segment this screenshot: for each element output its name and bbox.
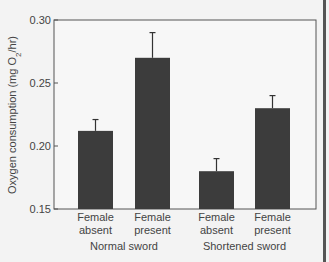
x-tick-label: Female — [77, 211, 114, 223]
page-edge-divider — [323, 0, 326, 262]
group-label: Normal sword — [90, 240, 158, 252]
y-tick-label: 0.25 — [30, 77, 51, 89]
y-tick-label: 0.15 — [30, 203, 51, 215]
x-tick-label: Female — [134, 211, 171, 223]
y-tick-label: 0.30 — [30, 14, 51, 26]
bar-chart: 0.150.200.250.30 FemaleabsentFemaleprese… — [0, 0, 329, 262]
x-axis-labels: FemaleabsentFemalepresentFemaleabsentFem… — [77, 211, 291, 252]
bar — [199, 171, 234, 209]
x-tick-label: absent — [79, 224, 112, 236]
bar — [255, 108, 290, 209]
y-axis-label: Oxygen consumption (mg O2/hr) — [6, 36, 23, 194]
y-tick-label: 0.20 — [30, 140, 51, 152]
bar — [135, 58, 170, 209]
x-tick-label: present — [254, 224, 291, 236]
x-tick-label: absent — [200, 224, 233, 236]
x-tick-label: present — [134, 224, 171, 236]
bar — [78, 131, 113, 209]
x-tick-label: Female — [254, 211, 291, 223]
x-tick-label: Female — [198, 211, 235, 223]
group-label: Shortened sword — [203, 240, 286, 252]
